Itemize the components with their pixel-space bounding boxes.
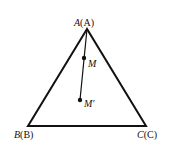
triangle-abc: [28, 29, 146, 126]
label-point-m: M: [87, 58, 97, 69]
label-point-mprime: M': [83, 98, 95, 109]
label-vertex-a: A(A): [73, 17, 94, 29]
triangle-diagram: A(A) B(B) C(C) M M': [0, 0, 170, 153]
diagram-svg: A(A) B(B) C(C) M M': [0, 0, 170, 153]
point-m: [82, 56, 86, 60]
label-vertex-b: B(B): [14, 129, 33, 141]
point-mprime: [78, 98, 82, 102]
label-vertex-c: C(C): [137, 129, 157, 141]
